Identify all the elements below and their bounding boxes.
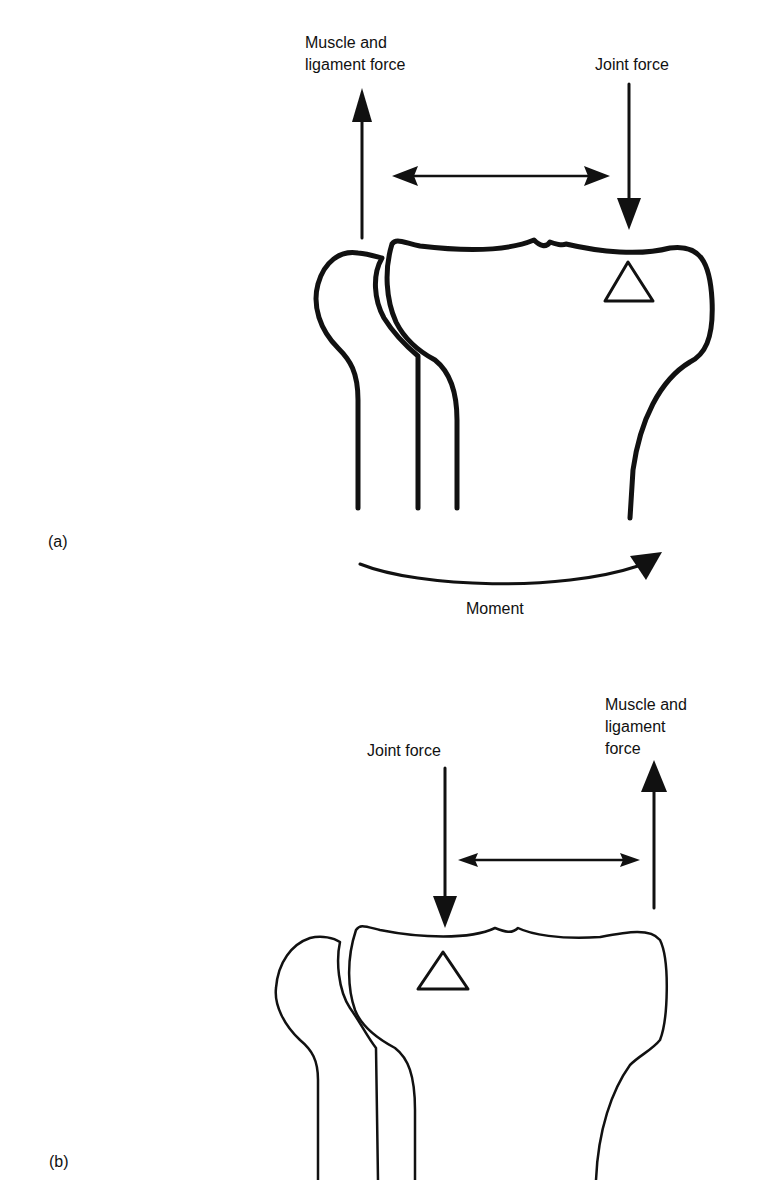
diagram-canvas [0, 0, 758, 1180]
panel-b-diagram [276, 760, 667, 1180]
panel-label-a: (a) [48, 533, 68, 551]
joint-force-label-b: Joint force [367, 740, 441, 761]
muscle-force-label-b-line3: force [605, 738, 641, 759]
muscle-force-arrow-a [352, 88, 372, 238]
muscle-force-label-a-line2: ligament force [305, 54, 406, 75]
joint-force-arrow-a [617, 84, 641, 230]
fulcrum-triangle-b [418, 952, 468, 989]
moment-arm-arrow-b [458, 853, 640, 867]
panel-a-diagram [316, 84, 712, 584]
muscle-force-label-b-line2: ligament [605, 716, 665, 737]
moment-arrow-a [360, 552, 662, 584]
ulna-outline-a [316, 253, 418, 508]
muscle-force-label-b-line1: Muscle and [605, 694, 687, 715]
muscle-force-arrow-b [641, 760, 667, 908]
joint-force-arrow-b [433, 768, 457, 928]
muscle-force-label-a-line1: Muscle and [305, 32, 387, 53]
ulna-outline-b [276, 937, 378, 1180]
radius-outline-a [387, 240, 712, 518]
moment-label-a: Moment [466, 598, 524, 619]
joint-force-label-a: Joint force [595, 54, 669, 75]
fulcrum-triangle-a [605, 262, 653, 301]
radius-outline-b [349, 926, 667, 1180]
moment-arm-arrow-a [392, 166, 610, 186]
panel-label-b: (b) [49, 1153, 69, 1171]
